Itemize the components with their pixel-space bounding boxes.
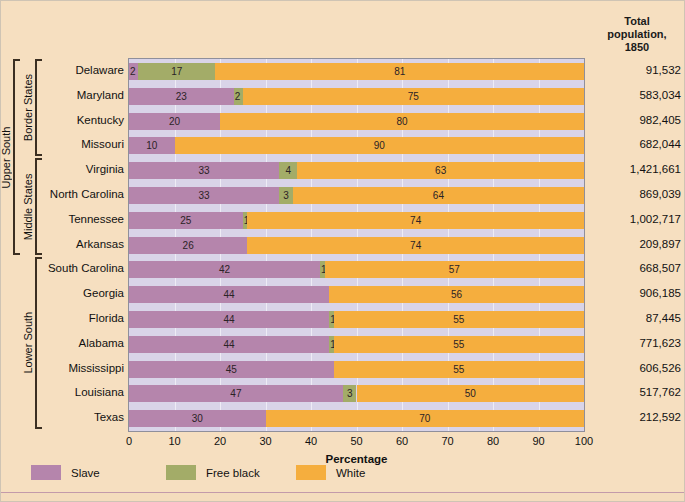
x-tick-label: 90 [532, 435, 544, 447]
state-label: Maryland [6, 87, 124, 104]
population-value: 906,185 [593, 285, 681, 302]
bar-segment-slave: 44 [129, 336, 329, 353]
x-tick-label: 60 [396, 435, 408, 447]
bar-row: 2674 [129, 237, 584, 254]
population-value: 682,044 [593, 136, 681, 153]
population-value: 91,532 [593, 62, 681, 79]
bar-segment-slave: 45 [129, 361, 334, 378]
x-tick-label: 40 [305, 435, 317, 447]
bar-segment-free-black: 2 [234, 88, 243, 105]
population-column: 91,532583,034982,405682,0441,421,661869,… [593, 58, 681, 432]
state-label: Virginia [6, 161, 124, 178]
bar-segment-white: 63 [297, 162, 584, 179]
state-label: Arkansas [6, 236, 124, 253]
bar-value-label: 70 [419, 413, 430, 424]
bar-value-label: 74 [410, 240, 421, 251]
x-axis-ticks: 0102030405060708090100 [128, 435, 585, 451]
bar-segment-white: 90 [175, 137, 585, 154]
legend-swatch [31, 465, 61, 480]
bar-segment-white: 57 [325, 261, 584, 278]
bar-segment-slave: 44 [129, 286, 329, 303]
bar-segment-free-black: 3 [343, 385, 357, 402]
state-label: South Carolina [6, 260, 124, 277]
x-tick-label: 80 [487, 435, 499, 447]
bar-value-label: 44 [224, 314, 235, 325]
bar-value-label: 25 [180, 215, 191, 226]
bar-segment-white: 75 [243, 88, 584, 105]
population-value: 212,592 [593, 409, 681, 426]
bar-segment-slave: 33 [129, 187, 279, 204]
bar-value-label: 55 [453, 364, 464, 375]
bar-value-label: 64 [433, 190, 444, 201]
bar-value-label: 81 [394, 66, 405, 77]
bar-value-label: 23 [176, 91, 187, 102]
bar-row: 1090 [129, 137, 584, 154]
population-value: 583,034 [593, 87, 681, 104]
bar-segment-slave: 30 [129, 410, 266, 427]
bar-value-label: 47 [230, 388, 241, 399]
bar-segment-slave: 25 [129, 212, 243, 229]
bar-value-label: 56 [451, 289, 462, 300]
pop-header-line-3: 1850 [593, 41, 681, 54]
bar-value-label: 44 [224, 289, 235, 300]
bar-segment-free-black: 3 [279, 187, 293, 204]
bottom-edge-strip [1, 492, 684, 501]
bar-value-label: 45 [226, 364, 237, 375]
bar-value-label: 44 [224, 339, 235, 350]
population-value: 982,405 [593, 112, 681, 129]
x-tick-label: 10 [168, 435, 180, 447]
population-value: 209,897 [593, 236, 681, 253]
bar-value-label: 63 [435, 165, 446, 176]
bar-value-label: 26 [183, 240, 194, 251]
bar-segment-slave: 26 [129, 237, 247, 254]
bar-row: 42157 [129, 261, 584, 278]
bar-value-label: 3 [283, 190, 289, 201]
pop-header-line-2: population, [593, 28, 681, 41]
bar-segment-slave: 23 [129, 88, 234, 105]
population-value: 869,039 [593, 186, 681, 203]
bar-segment-slave: 44 [129, 311, 329, 328]
state-label: Texas [6, 409, 124, 426]
bar-value-label: 42 [219, 264, 230, 275]
bar-value-label: 17 [171, 66, 182, 77]
population-value: 87,445 [593, 310, 681, 327]
population-value: 771,623 [593, 335, 681, 352]
bar-value-label: 55 [453, 314, 464, 325]
bar-value-label: 50 [465, 388, 476, 399]
bar-row: 25174 [129, 212, 584, 229]
legend-label: Slave [71, 463, 100, 483]
bar-value-label: 74 [410, 215, 421, 226]
bar-segment-white: 55 [334, 336, 584, 353]
bar-value-label: 55 [453, 339, 464, 350]
population-value: 1,002,717 [593, 211, 681, 228]
bar-row: 2080 [129, 113, 584, 130]
bar-row: 33364 [129, 187, 584, 204]
bar-row: 47350 [129, 385, 584, 402]
bar-row: 4456 [129, 286, 584, 303]
population-value: 606,526 [593, 360, 681, 377]
bar-segment-slave: 2 [129, 63, 138, 80]
bar-value-label: 30 [192, 413, 203, 424]
state-label: Mississippi [6, 360, 124, 377]
state-label: Delaware [6, 62, 124, 79]
state-label: Florida [6, 310, 124, 327]
bar-segment-free-black: 4 [279, 162, 297, 179]
x-tick-label: 20 [214, 435, 226, 447]
bar-segment-slave: 20 [129, 113, 220, 130]
bar-segment-white: 74 [247, 212, 584, 229]
bar-row: 4555 [129, 361, 584, 378]
plot-area: 2178123275208010903346333364251742674421… [128, 58, 585, 432]
state-label: Missouri [6, 136, 124, 153]
bar-value-label: 2 [235, 91, 241, 102]
state-label: Alabama [6, 335, 124, 352]
chart-page: Total population, 1850 Upper SouthBorder… [0, 0, 685, 502]
bar-segment-white: 56 [329, 286, 584, 303]
state-label: Louisiana [6, 384, 124, 401]
bar-value-label: 75 [408, 91, 419, 102]
bar-segment-slave: 10 [129, 137, 175, 154]
bar-row: 23275 [129, 88, 584, 105]
population-value: 1,421,661 [593, 161, 681, 178]
bar-segment-white: 74 [247, 237, 584, 254]
bar-row: 44155 [129, 311, 584, 328]
bar-segment-white: 64 [293, 187, 584, 204]
